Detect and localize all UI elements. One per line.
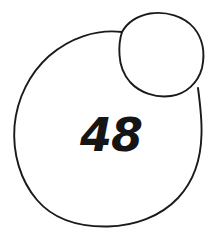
figure-number-label: 48 — [79, 108, 142, 162]
figure-drawing: 48 — [0, 0, 222, 241]
drawing-canvas: 48 — [0, 0, 222, 241]
small-circle-shape — [119, 13, 203, 97]
